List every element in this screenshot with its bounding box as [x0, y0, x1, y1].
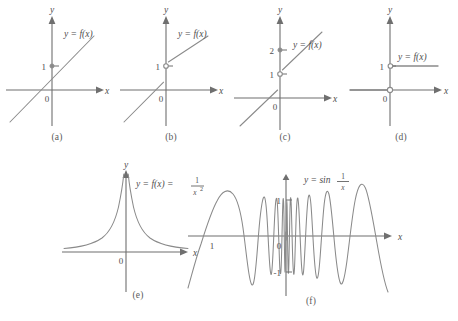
y-axis-arrow: [163, 16, 170, 24]
origin-label: 0: [383, 94, 388, 104]
origin-label: 0: [119, 256, 124, 266]
point-marker-open: [278, 72, 283, 77]
equation-label: y = f(x): [292, 40, 322, 51]
y-tick-label-1: 1: [42, 62, 47, 72]
y-axis-arrow: [49, 16, 56, 24]
x-tick-label-1: 1: [210, 241, 215, 251]
x-axis-arrow: [324, 95, 332, 102]
x-axis-arrow: [96, 87, 104, 94]
point-marker-filled: [50, 64, 54, 68]
y-tick-label-1: 1: [380, 62, 385, 72]
y-axis-label: y: [387, 5, 393, 15]
equation-fraction-denominator: x: [340, 183, 345, 192]
origin-label: 0: [159, 94, 164, 104]
panel-caption-a: (a): [2, 132, 112, 142]
panel-caption-d: (d): [346, 132, 456, 142]
x-axis-arrow: [210, 87, 218, 94]
function-curve-left: [124, 82, 164, 122]
panel-b: 1 0 x y y = f(x) (b): [116, 4, 226, 134]
equation-label: y = f(x): [63, 29, 93, 40]
function-curve-right: [286, 184, 388, 292]
y-tick-label-1: 1: [270, 70, 275, 80]
function-curve-right: [168, 36, 208, 62]
y-axis-arrow: [277, 16, 284, 24]
point-marker-open-at-1: [388, 64, 393, 69]
origin-label: 0: [277, 241, 282, 251]
figure-root: 1 0 x y y = f(x) (a) 1 0 x y y = f(x) (b…: [0, 0, 458, 321]
point-marker-open-at-origin: [387, 87, 392, 92]
function-curve-right: [282, 32, 322, 70]
y-axis-label: y: [163, 5, 169, 15]
panel-c: 2 1 0 x y y = f(x) (c): [230, 4, 340, 134]
equation-label: y = f(x): [397, 52, 427, 63]
panel-d-graph: 1 0 x y y = f(x): [346, 4, 456, 134]
panel-a: 1 0 x y y = f(x) (a): [2, 4, 112, 134]
function-curve-left: [188, 191, 286, 288]
panel-caption-b: (b): [116, 132, 226, 142]
x-axis-arrow: [434, 87, 442, 94]
panel-f: 1 -1 1 0 x y = sin 1 x (f): [186, 170, 436, 312]
panel-caption-c: (c): [230, 132, 340, 142]
panel-caption-f: (f): [186, 296, 436, 306]
y-axis-label: y: [123, 160, 129, 170]
point-marker-filled: [278, 48, 282, 52]
y-axis-label: y: [277, 5, 283, 15]
y-tick-label-1: 1: [156, 62, 161, 72]
x-axis-label: x: [104, 86, 110, 96]
panel-f-graph: 1 -1 1 0 x y = sin 1 x: [186, 170, 436, 312]
y-axis-arrow: [387, 16, 394, 24]
panel-b-graph: 1 0 x y y = f(x): [116, 4, 226, 134]
x-axis-label: x: [218, 86, 224, 96]
equation-label: y = sin: [303, 175, 331, 185]
panel-c-graph: 2 1 0 x y y = f(x): [230, 4, 340, 134]
equation-label: y = f(x): [177, 29, 207, 40]
function-curve-left-branch: [64, 174, 124, 249]
equation-label: y = f(x) =: [135, 179, 173, 190]
origin-label: 0: [45, 94, 50, 104]
x-axis-label: x: [443, 86, 449, 96]
panel-d: 1 0 x y y = f(x) (d): [346, 4, 456, 134]
y-tick-label-positive-1: 1: [277, 196, 282, 206]
y-tick-label-negative-1: -1: [274, 268, 282, 278]
panel-a-graph: 1 0 x y y = f(x): [2, 4, 112, 134]
y-tick-label-2: 2: [270, 46, 275, 56]
y-axis-arrow: [283, 174, 290, 180]
equation-fraction-numerator: 1: [341, 172, 345, 181]
x-axis-arrow: [384, 233, 392, 240]
origin-label: 0: [273, 102, 278, 112]
x-axis-label: x: [332, 94, 338, 104]
y-axis-label: y: [49, 5, 55, 15]
point-marker-open: [164, 64, 169, 69]
x-axis-label: x: [397, 232, 403, 242]
